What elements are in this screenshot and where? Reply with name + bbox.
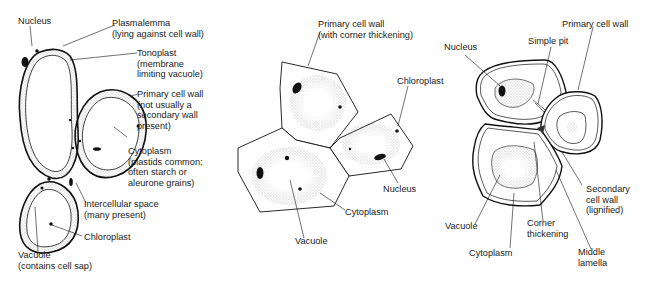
- label-nucleus-sclerenchyma: Nucleus: [444, 42, 477, 53]
- label-plasmalemma: Plasmalemma (lying against cell wall): [112, 18, 204, 39]
- label-simple-pit: Simple pit: [528, 36, 568, 47]
- label-middle-lamella: Middle lamella: [578, 247, 607, 268]
- label-primary-wall-collenchyma: Primary cell wall (with corner thickenin…: [318, 19, 413, 40]
- label-chloroplast-collenchyma: Chloroplast: [397, 76, 443, 87]
- label-cytoplasm-parenchyma: Cytoplasm (plastids common; often starch…: [128, 146, 203, 188]
- label-corner-thickening: Corner thickening: [527, 218, 568, 239]
- label-vacuole-collenchyma: Vacuole: [295, 236, 328, 247]
- label-vacuole-parenchyma: Vacuole (contains cell sap): [18, 250, 92, 271]
- label-secondary-wall: Secondary cell wall (lignified): [586, 184, 630, 216]
- label-nucleus-parenchyma: Nucleus: [18, 16, 51, 27]
- label-cytoplasm-sclerenchyma: Cytoplasm: [469, 248, 512, 259]
- label-tonoplast: Tonoplast (membrane limiting vacuole): [137, 48, 203, 80]
- label-intercellular-space: Intercellular space (many present): [84, 199, 159, 220]
- label-cytoplasm-collenchyma: Cytoplasm: [345, 207, 388, 218]
- label-primary-wall-parenchyma: Primary cell wall (not usually a seconda…: [137, 89, 203, 131]
- sclerenchyma-cells: [473, 60, 602, 206]
- label-chloroplast-parenchyma: Chloroplast: [84, 232, 130, 243]
- label-nucleus-collenchyma: Nucleus: [383, 184, 416, 195]
- label-primary-wall-sclerenchyma: Primary cell wall: [562, 19, 628, 30]
- label-vacuole-sclerenchyma: Vacuole: [445, 221, 478, 232]
